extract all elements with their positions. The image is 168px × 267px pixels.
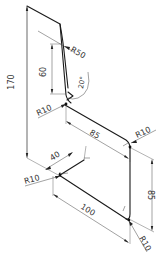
dim-upper-bend-radius: R10	[35, 103, 66, 118]
label-angle: 20°	[77, 76, 87, 90]
label-bottom-right-radius: R10	[137, 235, 153, 253]
junction-marker	[129, 146, 132, 149]
dim-right-vertical: 85	[131, 148, 155, 232]
label-upper-bend-radius: R10	[35, 103, 53, 118]
label-lower-left-radius: R10	[23, 173, 41, 186]
label-overall-height: 170	[7, 74, 16, 89]
label-right-vertical: 85	[146, 190, 155, 200]
lower-leg-segment	[60, 160, 84, 175]
dim-lower-leg: 40	[45, 146, 90, 170]
dim-upper-horizontal: 85	[66, 105, 130, 162]
label-upper-vertical: 60	[39, 67, 48, 77]
isometric-part-drawing: 170 60 R50 20° R10 85 R10	[0, 0, 168, 267]
junction-marker	[128, 219, 131, 222]
junction-marker	[59, 174, 62, 177]
label-upper-horizontal: 85	[88, 128, 101, 141]
label-top-radius: R50	[69, 45, 87, 61]
dim-right-bend-radius: R10	[123, 125, 156, 146]
label-bottom: 100	[79, 202, 97, 218]
dim-bottom: 100	[53, 176, 130, 244]
junction-marker	[65, 103, 68, 106]
right-vertical-segment	[126, 148, 130, 219]
drawing-canvas: 170 60 R50 20° R10 85 R10	[0, 0, 168, 267]
label-right-bend-radius: R10	[134, 125, 152, 140]
